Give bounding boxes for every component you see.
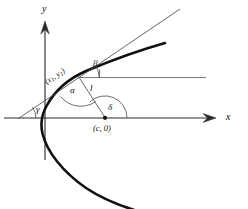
focus-point-label: (c, 0) <box>93 124 111 133</box>
geometry-figure: y x (x1, y1) (c, 0) α β γ δ l <box>0 0 248 209</box>
angle-arc-beta <box>96 67 99 78</box>
angle-gamma-label: γ <box>36 105 40 114</box>
tangent-line <box>19 9 181 119</box>
angle-beta-label: β <box>93 59 97 68</box>
segment-l-label: l <box>90 84 93 93</box>
focus-point-dot <box>103 116 107 120</box>
axes-group <box>4 21 216 160</box>
x-axis-label: x <box>226 112 230 122</box>
angle-delta-label: δ <box>108 103 112 112</box>
angle-alpha-label: α <box>70 86 75 95</box>
y-axis-label: y <box>42 4 46 14</box>
